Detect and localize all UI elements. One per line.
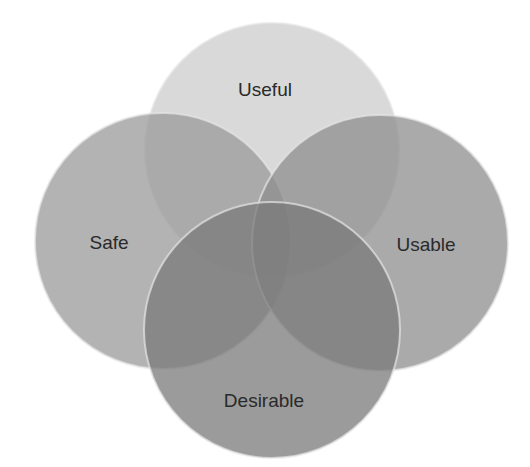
label-useful: Useful (238, 79, 292, 100)
label-desirable: Desirable (224, 390, 304, 411)
label-safe: Safe (89, 232, 128, 253)
label-usable: Usable (396, 234, 455, 255)
venn-diagram: Useful Safe Usable Desirable (0, 0, 530, 467)
circle-desirable (144, 202, 400, 458)
